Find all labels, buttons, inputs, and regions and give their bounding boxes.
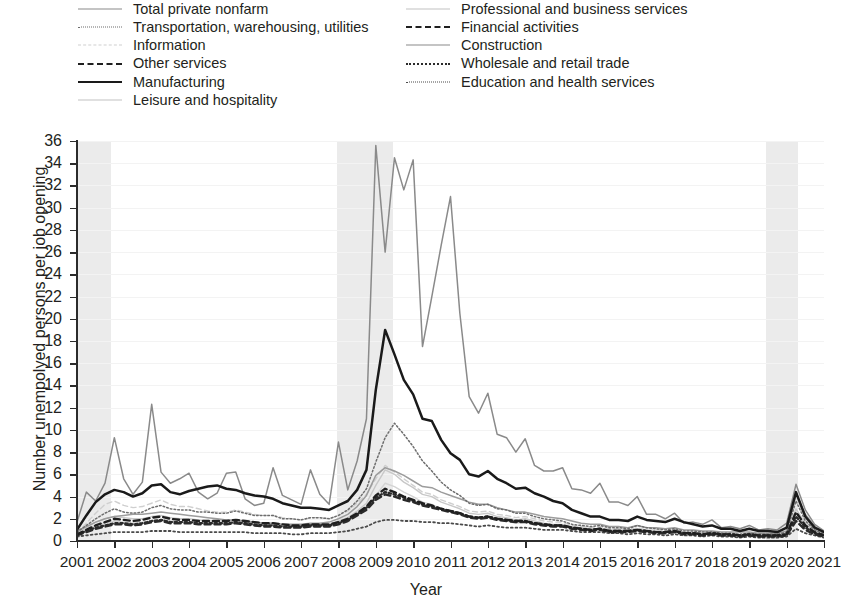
series-line <box>77 423 824 534</box>
y-axis-tick <box>70 519 76 520</box>
legend-item-label: Total private nonfarm <box>133 2 268 17</box>
legend-swatch-icon <box>406 57 450 71</box>
legend-swatch-icon <box>78 20 122 34</box>
legend-item-label: Financial activities <box>461 20 579 35</box>
legend-swatch-icon <box>78 38 122 52</box>
y-axis-tick <box>70 297 76 298</box>
series-line <box>77 330 824 532</box>
y-axis-tick <box>70 430 76 431</box>
y-axis-tick <box>70 185 76 186</box>
x-axis-tick <box>226 541 227 548</box>
x-axis-tick <box>413 541 414 548</box>
legend-swatch-icon <box>406 2 450 16</box>
legend-item[interactable]: Professional and business services <box>406 0 687 18</box>
y-axis-tick <box>70 341 76 342</box>
y-axis-tick <box>70 319 76 320</box>
x-axis-title: Year <box>0 581 852 599</box>
chart-figure: Total private nonfarmTransportation, war… <box>0 0 852 611</box>
legend-item[interactable]: Construction <box>406 36 687 54</box>
y-axis-tick <box>70 452 76 453</box>
y-axis-tick <box>70 541 76 542</box>
x-axis-tick <box>264 541 265 548</box>
x-axis-tick <box>675 541 676 548</box>
x-axis-tick <box>787 541 788 548</box>
chart-legend: Total private nonfarmTransportation, war… <box>0 0 852 122</box>
legend-item[interactable]: Manufacturing <box>78 73 369 91</box>
legend-item-label: Construction <box>461 38 542 53</box>
y-axis-tick <box>70 474 76 475</box>
legend-item-label: Education and health services <box>461 75 654 90</box>
x-axis-tick-label: 2021 <box>801 554 847 570</box>
legend-item[interactable]: Transportation, warehousing, utilities <box>78 18 369 36</box>
series-lines <box>77 141 824 541</box>
legend-item-label: Other services <box>133 56 226 71</box>
x-axis-tick <box>600 541 601 548</box>
legend-item[interactable]: Education and health services <box>406 73 687 91</box>
legend-swatch-icon <box>78 93 122 107</box>
legend-item[interactable]: Total private nonfarm <box>78 0 369 18</box>
y-axis-line <box>76 140 78 542</box>
y-axis-tick <box>70 163 76 164</box>
legend-item[interactable]: Wholesale and retail trade <box>406 55 687 73</box>
x-axis-tick <box>451 541 452 548</box>
series-line <box>77 492 824 535</box>
x-axis-tick <box>563 541 564 548</box>
x-axis-tick <box>301 541 302 548</box>
legend-column-right: Professional and business servicesFinanc… <box>406 0 687 91</box>
x-axis-tick <box>77 541 78 548</box>
x-axis-tick <box>152 541 153 548</box>
legend-swatch-icon <box>406 20 450 34</box>
legend-swatch-icon <box>406 75 450 89</box>
x-axis-tick <box>338 541 339 548</box>
legend-item-label: Professional and business services <box>461 2 687 17</box>
y-axis-tick <box>70 230 76 231</box>
plot-area <box>77 141 824 541</box>
legend-swatch-icon <box>78 2 122 16</box>
y-axis-tick <box>70 141 76 142</box>
x-axis-tick <box>525 541 526 548</box>
series-line <box>77 145 824 531</box>
y-axis-tick <box>70 252 76 253</box>
legend-item[interactable]: Information <box>78 36 369 54</box>
legend-swatch-icon <box>406 38 450 52</box>
x-axis-tick <box>712 541 713 548</box>
legend-item-label: Wholesale and retail trade <box>461 56 629 71</box>
legend-item[interactable]: Other services <box>78 55 369 73</box>
y-axis-tick <box>70 497 76 498</box>
legend-swatch-icon <box>78 57 122 71</box>
y-axis-tick <box>70 208 76 209</box>
legend-item-label: Leisure and hospitality <box>133 93 277 108</box>
legend-swatch-icon <box>78 75 122 89</box>
legend-item-label: Manufacturing <box>133 75 225 90</box>
legend-item[interactable]: Leisure and hospitality <box>78 91 369 109</box>
legend-item-label: Transportation, warehousing, utilities <box>133 20 369 35</box>
legend-column-left: Total private nonfarmTransportation, war… <box>78 0 369 109</box>
x-axis-tick <box>749 541 750 548</box>
x-axis-tick <box>637 541 638 548</box>
x-axis-tick <box>114 541 115 548</box>
y-axis-tick <box>70 363 76 364</box>
legend-item[interactable]: Financial activities <box>406 18 687 36</box>
legend-item-label: Information <box>133 38 206 53</box>
y-axis-title: Number unempolyed persons per job openin… <box>31 119 49 539</box>
x-axis-tick <box>189 541 190 548</box>
y-axis-tick <box>70 408 76 409</box>
x-axis-tick <box>488 541 489 548</box>
y-axis-tick <box>70 274 76 275</box>
y-axis-tick <box>70 385 76 386</box>
x-axis-tick <box>824 541 825 548</box>
x-axis-tick <box>376 541 377 548</box>
